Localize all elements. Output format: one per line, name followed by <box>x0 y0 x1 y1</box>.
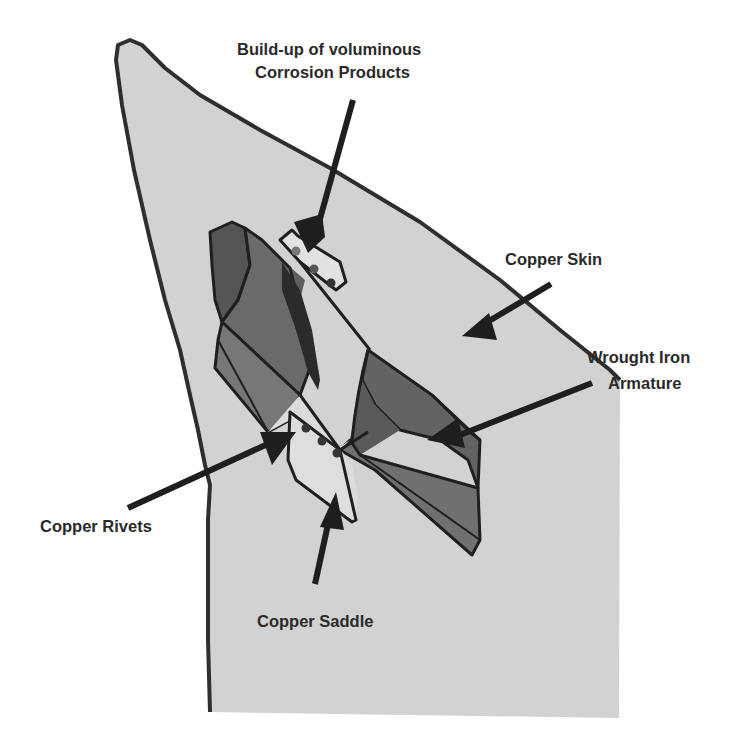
rivet <box>302 424 311 433</box>
label-armature-line1: Wrought Iron <box>587 348 690 366</box>
rivet <box>318 437 327 446</box>
rivet <box>333 449 342 458</box>
label-copper-rivets: Copper Rivets <box>40 517 152 535</box>
label-copper-skin: Copper Skin <box>505 250 602 268</box>
copper-skin-armature-diagram: Build-up of voluminous Corrosion Product… <box>0 0 747 745</box>
label-armature-line2: Armature <box>608 374 681 392</box>
label-copper-saddle: Copper Saddle <box>257 612 373 630</box>
label-corrosion-line1: Build-up of voluminous <box>237 40 421 58</box>
label-corrosion-line2: Corrosion Products <box>255 63 410 81</box>
